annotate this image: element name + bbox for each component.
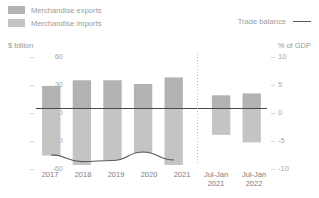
bar-merchandise-exports: [212, 95, 230, 108]
bar-merchandise-imports: [42, 109, 60, 156]
legend-item-merchandise-imports: Merchandise imports: [8, 18, 102, 28]
bar-merchandise-imports: [103, 109, 121, 161]
line-swatch-icon: [293, 21, 311, 22]
legend-item-merchandise-exports: Merchandise exports: [8, 5, 102, 15]
legend-item-trade-balance: Trade balance: [238, 17, 311, 26]
right-axis-tick: -10: [278, 165, 308, 173]
right-tick-mark: [271, 85, 275, 86]
legend-label: Trade balance: [238, 17, 286, 26]
right-tick-mark: [271, 57, 275, 58]
legend-label: Merchandise imports: [31, 19, 102, 28]
x-axis-tick: Jul-Jan 2022: [232, 170, 276, 188]
right-axis-tick: 5: [278, 81, 308, 89]
right-axis-tick: -5: [278, 137, 308, 145]
bar-merchandise-exports: [134, 84, 152, 108]
left-tick-mark: [30, 57, 34, 58]
bar-merchandise-exports: [243, 93, 261, 108]
plot-area: [36, 52, 267, 165]
bar-merchandise-imports: [165, 109, 183, 166]
bar-merchandise-imports: [73, 109, 91, 166]
chart-legend: Merchandise exports Merchandise imports: [8, 5, 102, 28]
right-tick-mark: [271, 113, 275, 114]
square-swatch-icon: [8, 6, 25, 14]
right-tick-mark: [271, 141, 275, 142]
bar-merchandise-exports: [42, 86, 60, 109]
left-tick-mark: [30, 141, 34, 142]
bar-merchandise-imports: [243, 109, 261, 143]
chart-figure: Merchandise exports Merchandise imports …: [0, 0, 319, 198]
left-tick-mark: [30, 113, 34, 114]
right-axis-tick: 10: [278, 53, 308, 61]
legend-label: Merchandise exports: [31, 6, 102, 15]
bar-merchandise-exports: [103, 80, 121, 108]
chart-canvas: [36, 52, 267, 165]
right-axis-tick: 0: [278, 109, 308, 117]
left-axis-title: $ billion: [8, 41, 33, 50]
left-tick-mark: [30, 85, 34, 86]
square-swatch-icon: [8, 19, 25, 27]
bar-merchandise-imports: [212, 109, 230, 135]
right-axis-title: % of GDP: [278, 41, 311, 50]
bar-merchandise-exports: [165, 77, 183, 108]
bar-merchandise-exports: [73, 80, 91, 108]
bar-merchandise-imports: [134, 109, 152, 153]
